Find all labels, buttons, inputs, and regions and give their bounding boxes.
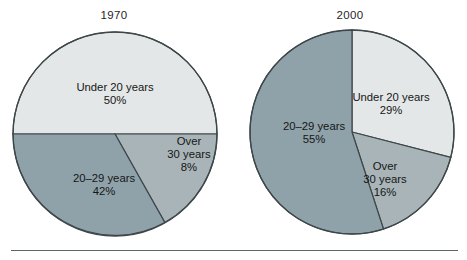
- chart-title-2000: 2000: [234, 9, 466, 21]
- pie-graphic-1970: [0, 24, 232, 240]
- figure-canvas: 1970 Under 20 years 50% Over 30 years 8%…: [0, 0, 467, 260]
- footer-divider: [11, 250, 458, 251]
- slice-1970-under-20: [13, 32, 217, 134]
- chart-title-1970: 1970: [0, 9, 230, 21]
- pie-graphic-2000: [235, 24, 467, 240]
